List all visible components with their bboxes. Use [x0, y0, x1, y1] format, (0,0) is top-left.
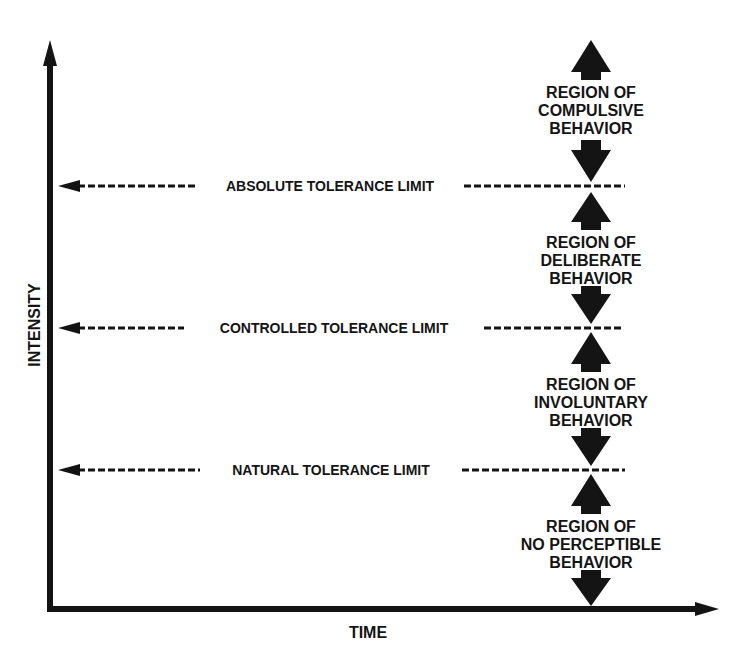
- svg-text:DELIBERATE: DELIBERATE: [540, 252, 641, 269]
- absolute-tolerance-limit-label: ABSOLUTE TOLERANCE LIMIT: [226, 178, 435, 194]
- down-arrow-icon: [571, 286, 611, 324]
- svg-text:BEHAVIOR: BEHAVIOR: [549, 554, 633, 571]
- up-arrow-icon: [571, 40, 611, 80]
- up-arrow-icon: [571, 474, 611, 514]
- region-involuntary: REGION OF INVOLUNTARY BEHAVIOR: [534, 332, 648, 466]
- x-axis-label: TIME: [349, 624, 388, 641]
- up-arrow-icon: [571, 192, 611, 230]
- region-no-perceptible: REGION OF NO PERCEPTIBLE BEHAVIOR: [521, 474, 662, 606]
- y-axis-arrowhead-icon: [43, 40, 57, 66]
- left-arrow-icon: [58, 180, 80, 192]
- down-arrow-icon: [571, 570, 611, 606]
- controlled-tolerance-limit-label: CONTROLLED TOLERANCE LIMIT: [220, 320, 449, 336]
- down-arrow-icon: [571, 428, 611, 466]
- natural-tolerance-limit-line: NATURAL TOLERANCE LIMIT: [58, 462, 625, 478]
- svg-text:BEHAVIOR: BEHAVIOR: [549, 120, 633, 137]
- svg-text:REGION OF: REGION OF: [546, 518, 636, 535]
- controlled-tolerance-limit-line: CONTROLLED TOLERANCE LIMIT: [58, 320, 622, 336]
- svg-text:BEHAVIOR: BEHAVIOR: [549, 412, 633, 429]
- svg-text:INVOLUNTARY: INVOLUNTARY: [534, 394, 648, 411]
- svg-text:REGION OF: REGION OF: [546, 376, 636, 393]
- svg-text:BEHAVIOR: BEHAVIOR: [549, 270, 633, 287]
- left-arrow-icon: [58, 464, 80, 476]
- svg-text:NO PERCEPTIBLE: NO PERCEPTIBLE: [521, 536, 662, 553]
- y-axis-label: INTENSITY: [26, 283, 43, 367]
- y-axis: [43, 40, 57, 610]
- down-arrow-icon: [571, 140, 611, 182]
- svg-text:REGION OF: REGION OF: [546, 84, 636, 101]
- up-arrow-icon: [571, 332, 611, 372]
- natural-tolerance-limit-label: NATURAL TOLERANCE LIMIT: [232, 462, 430, 478]
- svg-text:COMPULSIVE: COMPULSIVE: [538, 102, 644, 119]
- x-axis: [47, 602, 719, 616]
- svg-text:REGION OF: REGION OF: [546, 234, 636, 251]
- region-deliberate: REGION OF DELIBERATE BEHAVIOR: [540, 192, 641, 324]
- left-arrow-icon: [58, 322, 80, 334]
- x-axis-arrowhead-icon: [695, 602, 719, 616]
- intensity-time-diagram: TIME INTENSITY ABSOLUTE TOLERANCE LIMIT …: [0, 0, 743, 649]
- region-compulsive: REGION OF COMPULSIVE BEHAVIOR: [538, 40, 644, 182]
- absolute-tolerance-limit-line: ABSOLUTE TOLERANCE LIMIT: [58, 178, 625, 194]
